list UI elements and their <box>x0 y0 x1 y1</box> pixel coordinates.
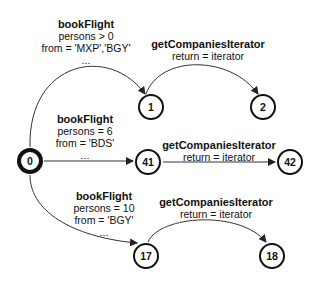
edge-label-41-42: getCompaniesIterator return = iterator <box>162 139 276 163</box>
state-node-0: 0 <box>17 148 43 174</box>
edge-label-title: bookFlight <box>42 18 131 30</box>
edge-label-0-17: bookFlight persons = 10 from = 'BGY' ... <box>73 190 134 238</box>
edge-label-1-2: getCompaniesIterator return = iterator <box>151 38 265 62</box>
state-node-2: 2 <box>250 94 276 120</box>
state-node-41: 41 <box>135 149 161 175</box>
edge-label-0-1: bookFlight persons > 0 from = 'MXP','BGY… <box>42 18 131 66</box>
edge-label-0-41: bookFlight persons = 6 from = 'BDS' ... <box>56 113 115 161</box>
state-node-42: 42 <box>277 149 303 175</box>
state-node-1: 1 <box>138 94 164 120</box>
edge-label-17-18: getCompaniesIterator return = iterator <box>159 196 273 220</box>
edge-17-18 <box>148 220 266 242</box>
state-node-18: 18 <box>259 243 285 269</box>
edge-1-2 <box>146 65 258 94</box>
state-node-17: 17 <box>133 243 159 269</box>
